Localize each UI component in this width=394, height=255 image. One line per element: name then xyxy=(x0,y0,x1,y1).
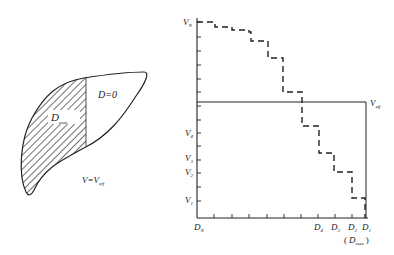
hatched-region xyxy=(10,60,86,200)
x-label-d1: D1 xyxy=(361,222,371,233)
x-label-d4: D4 xyxy=(313,222,324,233)
x-ticks xyxy=(214,214,352,218)
volume-effective-label: V=Veff xyxy=(82,175,105,186)
y-label-v3: V3 xyxy=(185,153,194,164)
x-label-dn: DN xyxy=(193,222,205,233)
x-label-d3: D3 xyxy=(330,222,341,233)
dvh-step-curve xyxy=(197,22,365,218)
dvh-chart: VN V4 V3 V2 V1 Veff DN D4 D3 D2 D1 (Dmax… xyxy=(183,17,381,246)
zero-dose-region-label: D=0 xyxy=(97,89,117,100)
veff-reference-line xyxy=(197,102,366,218)
y-ticks xyxy=(197,22,201,201)
x-annotation-dmax: (Dmax) xyxy=(344,235,369,246)
organ-diagram: Dmax D=0 V=Veff xyxy=(10,60,147,200)
x-label-d2: D2 xyxy=(347,222,358,233)
y-label-v1: V1 xyxy=(185,195,193,206)
y-label-v4: V4 xyxy=(185,128,194,139)
y-label-v2: V2 xyxy=(185,167,194,178)
figure-canvas: Dmax D=0 V=Veff xyxy=(0,0,394,255)
veff-label: Veff xyxy=(370,98,381,109)
y-label-vn: VN xyxy=(183,17,193,28)
